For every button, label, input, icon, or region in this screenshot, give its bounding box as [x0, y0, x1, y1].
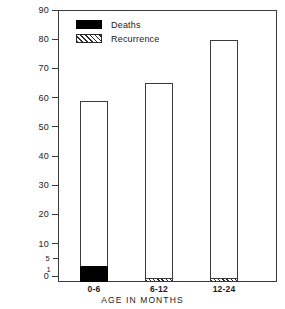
y-tick-label-60: 60	[38, 93, 52, 103]
y-tick-60: 60	[38, 92, 58, 103]
bar-group-6-12	[145, 10, 173, 282]
legend-item-deaths: Deaths	[76, 18, 196, 31]
bar-total-6-12[interactable]	[145, 83, 173, 283]
x-tick-label-0-6: 0-6	[70, 284, 118, 294]
y-tick-50: 50	[38, 121, 58, 132]
y-tick-label-50: 50	[38, 122, 52, 132]
bar-segment-deaths-0-6[interactable]	[80, 266, 108, 282]
y-tick-label-40: 40	[38, 151, 52, 161]
y-tick-label-80: 80	[38, 34, 52, 44]
x-tick-label-6-12: 6-12	[135, 284, 183, 294]
y-tick-label-30: 30	[38, 180, 52, 190]
y-tick-label-90: 90	[38, 5, 52, 15]
y-tick-label-5: 5	[46, 254, 53, 263]
y-tick-label-70: 70	[38, 63, 52, 73]
y-tick-label-10: 10	[38, 239, 52, 249]
bar-group-12-24	[210, 10, 238, 282]
legend-item-recurrence: Recurrence	[76, 32, 196, 45]
x-tick-label-12-24: 12-24	[200, 284, 248, 294]
y-tick-90: 90	[38, 5, 58, 16]
bar-chart-figure: 90 80 70 60 50 40 30 20	[0, 0, 285, 309]
y-axis: 90 80 70 60 50 40 30 20	[0, 0, 58, 309]
bars-layer	[58, 10, 277, 282]
y-tick-80: 80	[38, 34, 58, 45]
y-tick-70: 70	[38, 63, 58, 74]
bar-group-0-6	[80, 10, 108, 282]
legend-label-recurrence: Recurrence	[111, 34, 160, 44]
legend-label-deaths: Deaths	[111, 20, 141, 30]
y-tick-40: 40	[38, 151, 58, 162]
bar-segment-recurrence-6-12[interactable]	[145, 278, 173, 283]
legend-swatch-recurrence-icon	[76, 34, 102, 43]
bar-total-0-6[interactable]	[80, 101, 108, 282]
bar-total-12-24[interactable]	[210, 40, 238, 282]
bar-segment-recurrence-12-24[interactable]	[210, 278, 238, 283]
y-tick-label-0: 0	[44, 271, 52, 281]
legend-swatch-deaths-icon	[76, 20, 102, 29]
chart-legend: Deaths Recurrence	[76, 18, 196, 46]
y-tick-30: 30	[38, 180, 58, 191]
y-tick-5: 5	[46, 253, 58, 264]
x-axis-title: AGE IN MONTHS	[0, 295, 285, 305]
y-tick-20: 20	[38, 209, 58, 220]
y-tick-0: 0	[44, 271, 58, 282]
y-tick-label-20: 20	[38, 209, 52, 219]
y-tick-10: 10	[38, 238, 58, 249]
